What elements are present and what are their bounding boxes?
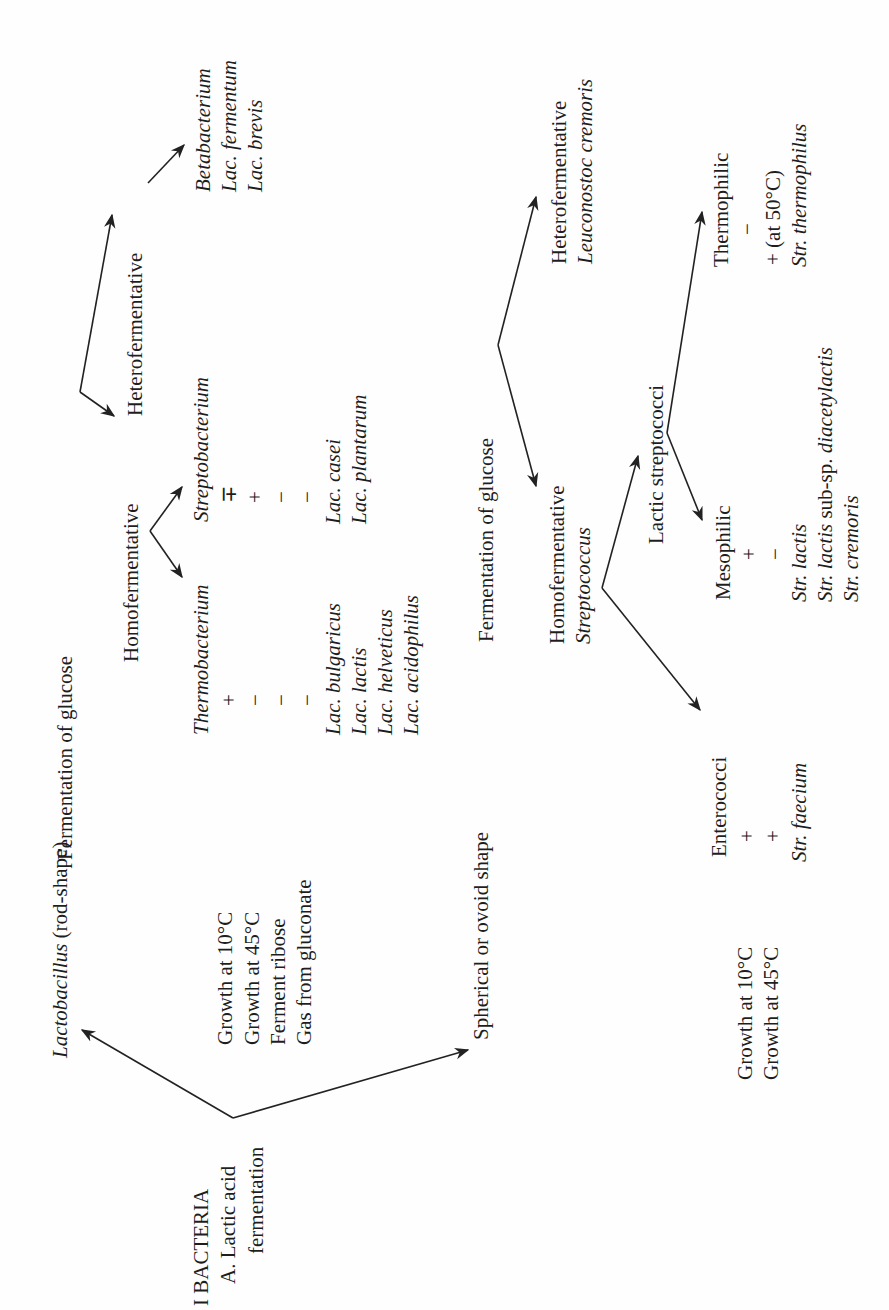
mesophilic-species-2: Str. lactis sub-sp. diacetylactis [812,347,838,602]
subsection-heading: A. Lactic acid [215,1166,241,1284]
thermobacterium-sign-4: − [294,694,320,706]
rod-test-4: Gas from gluconate [291,879,317,1045]
arrow-to-heterofermentative-lower [498,197,536,345]
thermophilic-species-1: Str. thermophilus [786,123,812,267]
betabacterium-species-1: Lac. fermentum [216,60,242,192]
arrow-to-mesophilic [667,433,702,520]
betabacterium-species-2: Lac. brevis [242,99,268,192]
enterococci-sign-1: + [734,830,760,842]
thermobacterium-sign-3: − [268,694,294,706]
mesophilic-label: Mesophilic [710,506,736,601]
streptobacterium-sign-3: − [268,491,294,503]
diacetylactis-part: diacetylactis [813,347,837,453]
sphere-criterion: Fermentation of glucose [473,438,499,642]
mesophilic-species-3: Str. cremoris [838,495,864,602]
rod-homofermentative: Homofermentative [118,503,144,662]
mesophilic-species-1: Str. lactis [786,524,812,602]
arrow-to-lactic-streptococci [602,456,638,588]
subsection-heading-cont: fermentation [243,1147,269,1254]
thermophilic-sign-1: − [734,223,760,235]
rod-test-2: Growth at 45°C [239,912,265,1045]
arrow-to-betabacterium [148,145,184,183]
sphere-homofermentative: Homofermentative [544,485,570,644]
streptobacterium-sign-4: − [294,491,320,503]
streptococcus-label: Streptococcus [570,527,596,644]
enterococci-label: Enterococci [706,757,732,857]
section-heading: I BACTERIA [188,1189,214,1306]
thermophilic-sign-2: + (at 50°C) [760,170,786,265]
thermobacterium-species-1: Lac. bulgaricus [320,603,346,735]
arrow-to-thermophilic [667,212,702,433]
sphere-test-1: Growth at 10°C [732,947,758,1080]
thermobacterium-sign-1: + [216,694,242,706]
rod-heterofermentative: Heterofermentative [122,253,148,416]
arrow-to-spherical [233,1050,468,1118]
leuconostoc-label: Leuconostoc cremoris [572,79,598,264]
sphere-heterofermentative: Heterofermentative [546,101,572,264]
thermobacterium-sign-2: − [242,694,268,706]
arrow-to-lactobacillus [82,1030,233,1118]
betabacterium-label: Betabacterium [190,68,216,192]
thermobacterium-species-2: Lac. lactis [346,648,372,736]
arrow-to-homofermentative-upper [80,392,114,416]
arrow-to-heterofermentative-upper [80,215,112,392]
arrow-to-thermobacterium [150,531,182,577]
streptobacterium-species-1: Lac. casei [320,439,346,524]
mesophilic-sign-2: − [762,548,788,560]
arrow-to-homofermentative-lower [498,345,536,486]
streptobacterium-species-2: Lac. plantarum [346,394,372,524]
rod-test-1: Growth at 10°C [212,912,238,1045]
streptobacterium-label: Streptobacterium [188,377,214,522]
sphere-test-2: Growth at 45°C [758,947,784,1080]
streptobacterium-sign-2: + [242,491,268,503]
thermobacterium-species-4: Lac. acidophilus [398,595,424,735]
str-lactis-part: Str. lactis [813,524,837,602]
lactic-streptococci-label: Lactic streptococci [643,385,669,544]
rotated-page: I BACTERIA A. Lactic acid fermentation L… [0,0,889,1310]
streptobacterium-sign-1: ∓ [216,485,242,503]
spherical-label: Spherical or ovoid shape [468,832,494,1040]
arrow-to-enterococci [602,588,700,710]
mesophilic-sign-1: + [736,548,762,560]
enterococci-sign-2: + [760,830,786,842]
thermobacterium-label: Thermobacterium [188,585,214,736]
rod-criterion: Fermentation of glucose [52,656,78,860]
lactobacillus-genus: Lactobacillus [48,944,72,1058]
lactobacillus-label: Lactobacillus (rod-shape) [47,842,73,1058]
arrow-to-streptobacterium [150,487,182,531]
enterococci-species-1: Str. faecium [786,763,812,862]
thermobacterium-species-3: Lac. helveticus [372,609,398,735]
rod-test-3: Ferment ribose [265,918,291,1045]
thermophilic-label: Thermophilic [708,153,734,267]
